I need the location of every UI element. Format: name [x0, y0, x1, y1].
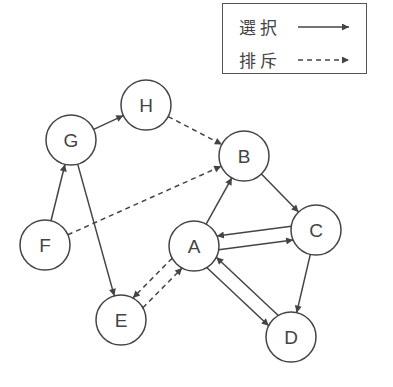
- edge-a-to-e: [133, 258, 172, 298]
- edge-a-to-d: [207, 268, 269, 326]
- node-g: G: [46, 115, 96, 165]
- node-c: C: [291, 205, 341, 255]
- node-h: H: [121, 80, 171, 130]
- edge-g-to-h: [94, 116, 124, 130]
- node-label: H: [139, 95, 153, 116]
- legend-label-selection: 選択: [239, 18, 281, 38]
- node-e: E: [96, 295, 146, 345]
- edge-f-to-g: [51, 164, 65, 220]
- node-b: B: [219, 131, 269, 181]
- node-label: D: [284, 327, 298, 348]
- node-label: B: [238, 146, 251, 167]
- legend-item-rejection: 排斥: [239, 47, 281, 72]
- edge-d-to-a: [216, 257, 278, 315]
- edge-c-to-d: [297, 254, 311, 312]
- legend-item-selection: 選択: [239, 14, 281, 39]
- edge-a-to-c: [219, 240, 293, 250]
- edge-g-to-e: [78, 164, 115, 296]
- edge-b-to-c: [261, 174, 298, 212]
- edge-h-to-b: [168, 117, 222, 145]
- legend-label-rejection: 排斥: [239, 51, 281, 71]
- legend-box: 選択 排斥: [222, 3, 367, 74]
- node-label: G: [64, 130, 79, 151]
- edge-c-to-a: [217, 226, 291, 236]
- edge-a-to-b: [206, 178, 232, 224]
- edge-e-to-a: [143, 268, 182, 308]
- node-label: A: [188, 236, 201, 257]
- node-label: C: [309, 220, 323, 241]
- node-f: F: [20, 220, 70, 270]
- node-a: A: [169, 221, 219, 271]
- node-label: E: [115, 310, 128, 331]
- node-d: D: [266, 312, 316, 362]
- legend-arrows: [295, 4, 355, 75]
- node-label: F: [39, 235, 51, 256]
